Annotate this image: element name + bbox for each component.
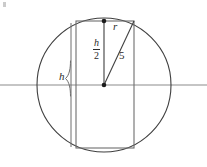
geometry-canvas bbox=[0, 0, 207, 167]
geometry-figure: r 5 h h 2 bbox=[0, 0, 207, 167]
top-midpoint-dot bbox=[102, 19, 107, 24]
half-height-numerator: h bbox=[93, 38, 100, 49]
radius-label: r bbox=[113, 21, 117, 32]
half-height-fraction-label: h 2 bbox=[93, 38, 100, 61]
height-brace bbox=[66, 61, 71, 96]
height-label: h bbox=[59, 71, 65, 82]
half-height-denominator: 2 bbox=[93, 51, 100, 62]
center-point-dot bbox=[102, 83, 107, 88]
hypotenuse-label: 5 bbox=[119, 50, 125, 61]
